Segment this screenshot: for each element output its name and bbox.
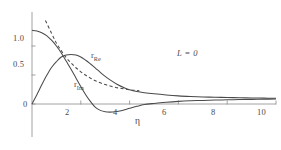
axes-group (32, 12, 276, 137)
y-tick-label-0-5: 0.5 (13, 59, 24, 69)
x-axis-title: η (135, 116, 140, 126)
plot-canvas (0, 0, 281, 150)
curve-label-r-re-subscript: Re (94, 55, 101, 62)
y-tick-label-0: 0 (23, 99, 27, 109)
curve-r-im (32, 30, 276, 112)
y-tick-label-1-0: 1.0 (13, 33, 24, 43)
data-curves (32, 20, 276, 112)
x-tick-label-6: 6 (162, 107, 166, 117)
scattering-amplitude-figure: 1.0 0.5 0 2 4 6 8 10 η rRe rIm L = 0 (0, 0, 281, 150)
x-tick-label-2: 2 (65, 107, 69, 117)
curve-label-r-im-subscript: Im (77, 84, 84, 91)
curve-label-r-re: rRe (91, 50, 101, 62)
x-tick-label-10: 10 (257, 107, 266, 117)
x-tick-label-4: 4 (113, 107, 117, 117)
curve-label-r-im: rIm (74, 79, 84, 91)
l-quantum-number-annotation: L = 0 (177, 48, 198, 58)
x-tick-label-8: 8 (211, 107, 215, 117)
curve-r-re (32, 54, 276, 104)
